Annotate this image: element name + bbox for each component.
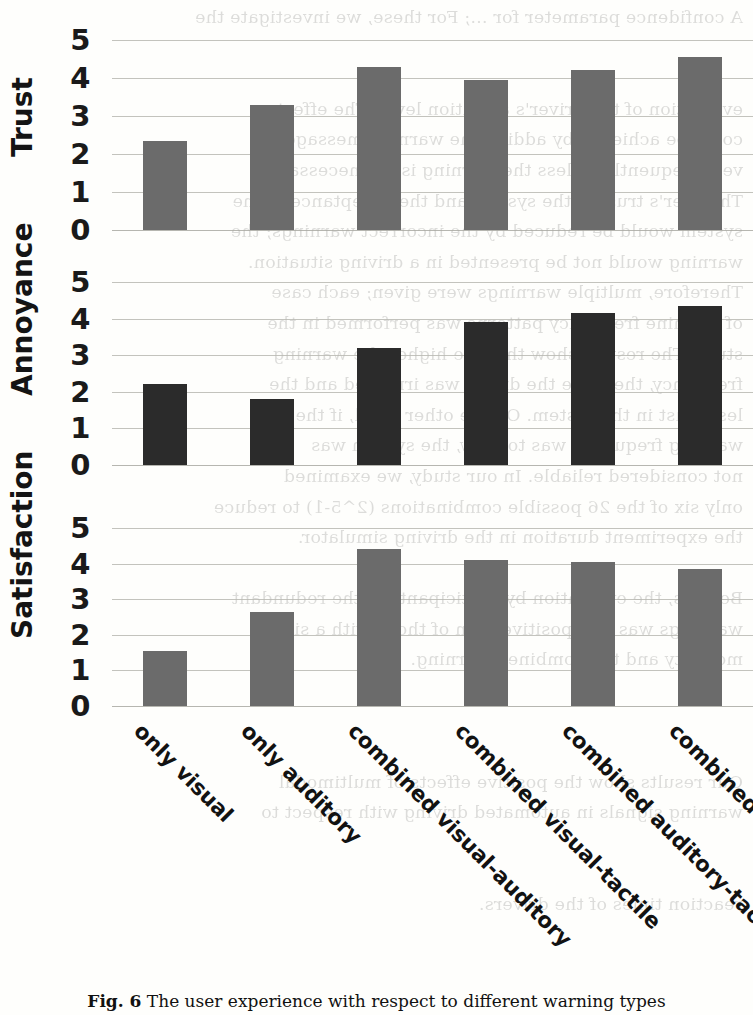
bar-satisfaction-4 — [571, 562, 615, 706]
bar-trust-1 — [250, 105, 294, 230]
x-label-2: combined visual-auditory — [343, 718, 577, 952]
x-axis-category-labels: only visualonly auditorycombined visual-… — [112, 710, 753, 950]
bar-group-annoyance — [112, 282, 753, 465]
y-tick-annoyance-1: 1 — [44, 414, 90, 443]
y-tick-trust-4: 4 — [44, 64, 90, 93]
figure-multipanel-bar-chart: 543210Trust543210Annoyance543210Satisfac… — [0, 0, 753, 1015]
bar-group-trust — [112, 40, 753, 230]
bar-trust-4 — [571, 70, 615, 230]
bar-satisfaction-2 — [357, 549, 401, 706]
y-tick-trust-5: 5 — [44, 26, 90, 55]
y-tick-satisfaction-1: 1 — [44, 656, 90, 685]
figure-caption-text: The user experience with respect to diff… — [147, 991, 666, 1011]
bar-satisfaction-1 — [250, 612, 294, 706]
gridline-annoyance-0 — [112, 465, 753, 466]
bar-trust-2 — [357, 67, 401, 230]
bar-annoyance-1 — [250, 399, 294, 465]
y-tick-trust-3: 3 — [44, 102, 90, 131]
y-tick-annoyance-3: 3 — [44, 341, 90, 370]
gridline-satisfaction-0 — [112, 706, 753, 707]
y-tick-trust-0: 0 — [44, 216, 90, 245]
y-tick-annoyance-5: 5 — [44, 268, 90, 297]
bar-trust-5 — [678, 57, 722, 230]
chart-panel-annoyance: 543210Annoyance — [0, 282, 753, 465]
bar-trust-0 — [143, 141, 187, 230]
bar-satisfaction-0 — [143, 651, 187, 706]
bar-annoyance-3 — [464, 322, 508, 465]
bar-annoyance-5 — [678, 306, 722, 465]
x-label-3: combined visual-tactile — [450, 718, 666, 934]
bar-satisfaction-5 — [678, 569, 722, 706]
chart-panel-satisfaction: 543210Satisfaction — [0, 528, 753, 706]
y-tick-satisfaction-4: 4 — [44, 549, 90, 578]
gridline-trust-0 — [112, 230, 753, 231]
y-axis-title-trust: Trust — [6, 113, 39, 157]
chart-panel-trust: 543210Trust — [0, 40, 753, 230]
y-tick-annoyance-2: 2 — [44, 377, 90, 406]
figure-caption: Fig. 6 The user experience with respect … — [0, 991, 753, 1011]
bar-group-satisfaction — [112, 528, 753, 706]
y-tick-trust-2: 2 — [44, 140, 90, 169]
y-axis-title-satisfaction: Satisfaction — [6, 595, 39, 639]
y-tick-trust-1: 1 — [44, 178, 90, 207]
y-tick-annoyance-4: 4 — [44, 304, 90, 333]
x-label-0: only visual — [130, 718, 239, 827]
y-tick-satisfaction-3: 3 — [44, 585, 90, 614]
bar-annoyance-2 — [357, 348, 401, 465]
y-tick-satisfaction-0: 0 — [44, 692, 90, 721]
y-tick-satisfaction-2: 2 — [44, 620, 90, 649]
y-tick-annoyance-0: 0 — [44, 451, 90, 480]
y-tick-satisfaction-5: 5 — [44, 514, 90, 543]
bar-annoyance-4 — [571, 313, 615, 465]
bar-trust-3 — [464, 80, 508, 230]
y-axis-title-annoyance: Annoyance — [6, 352, 39, 396]
bar-satisfaction-3 — [464, 560, 508, 706]
figure-number: Fig. 6 — [87, 991, 141, 1011]
bar-annoyance-0 — [143, 384, 187, 465]
